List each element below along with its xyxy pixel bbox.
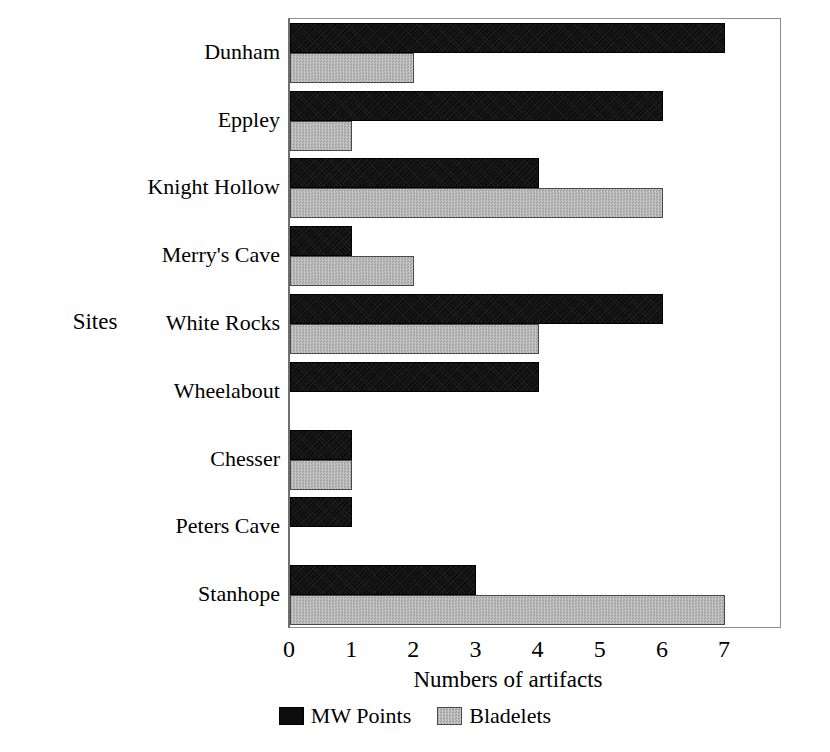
x-tick-label: 7 [704, 634, 744, 664]
legend-swatch-icon [279, 707, 304, 725]
bar-group [290, 430, 780, 490]
bar-bladelets [290, 188, 663, 218]
bar-group [290, 23, 780, 83]
bar-mw-points [290, 23, 725, 53]
bar-mw-points [290, 226, 352, 256]
legend-item: MW Points [279, 703, 411, 729]
bar-mw-points [290, 362, 539, 392]
bar-mw-points [290, 497, 352, 527]
bar-group [290, 294, 780, 354]
x-tick-label: 6 [642, 634, 682, 664]
bar-bladelets [290, 121, 352, 151]
y-axis-label: Wheelabout [120, 378, 280, 404]
artifact-bar-chart: Sites DunhamEppleyKnight HollowMerry's C… [0, 0, 830, 752]
bar-bladelets [290, 256, 414, 286]
y-axis-label: Chesser [120, 446, 280, 472]
bar-group [290, 158, 780, 218]
bar-mw-points [290, 91, 663, 121]
bar-mw-points [290, 430, 352, 460]
bar-group [290, 497, 780, 557]
x-tick-label: 4 [518, 634, 558, 664]
bar-group [290, 362, 780, 422]
bar-bladelets [290, 324, 539, 354]
y-axis-label: Eppley [120, 107, 280, 133]
legend-label: MW Points [311, 703, 411, 729]
legend-item: Bladelets [437, 703, 551, 729]
legend-swatch-icon [437, 707, 462, 725]
y-axis-category-labels: DunhamEppleyKnight HollowMerry's CaveWhi… [120, 18, 280, 628]
bar-mw-points [290, 158, 539, 188]
chart-legend: MW PointsBladelets [0, 703, 830, 729]
x-tick-label: 2 [393, 634, 433, 664]
bar-group [290, 91, 780, 151]
bar-mw-points [290, 565, 476, 595]
y-axis-label: Knight Hollow [120, 174, 280, 200]
bar-mw-points [290, 294, 663, 324]
bar-group [290, 565, 780, 625]
x-tick-label: 3 [455, 634, 495, 664]
bar-group [290, 226, 780, 286]
bar-bladelets [290, 53, 414, 83]
bars-container [290, 19, 780, 627]
x-tick-label: 0 [269, 634, 309, 664]
legend-label: Bladelets [469, 703, 551, 729]
y-axis-label: White Rocks [120, 310, 280, 336]
x-tick-label: 1 [331, 634, 371, 664]
y-axis-label: Peters Cave [120, 513, 280, 539]
y-axis-label: Merry's Cave [120, 242, 280, 268]
x-axis-tick-labels: 01234567 [288, 634, 788, 668]
plot-area [288, 18, 781, 628]
bar-bladelets [290, 460, 352, 490]
bar-bladelets [290, 595, 725, 625]
y-axis-label: Stanhope [120, 581, 280, 607]
y-axis-label: Dunham [120, 39, 280, 65]
x-axis-title: Numbers of artifacts [288, 665, 728, 695]
x-tick-label: 5 [580, 634, 620, 664]
